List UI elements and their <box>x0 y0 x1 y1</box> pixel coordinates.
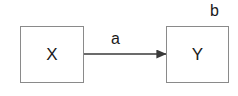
node-x-label: X <box>46 46 57 63</box>
node-y-label: Y <box>192 46 203 63</box>
edge-label-a: a <box>111 31 120 47</box>
annotation-label-b: b <box>210 3 219 19</box>
node-x[interactable]: X <box>20 26 84 83</box>
node-y[interactable]: Y <box>166 26 229 83</box>
diagram-canvas: X Y a b <box>0 0 238 96</box>
